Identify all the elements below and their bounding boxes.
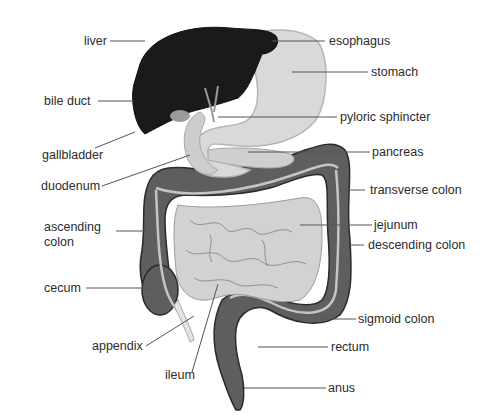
gallbladder-shape — [170, 110, 190, 122]
label-gallbladder: gallbladder — [42, 148, 103, 163]
label-stomach: stomach — [371, 65, 418, 80]
label-sigmoid-colon: sigmoid colon — [358, 312, 434, 327]
label-appendix: appendix — [92, 339, 143, 354]
label-descending-colon: descending colon — [368, 238, 465, 253]
label-bile-duct: bile duct — [44, 94, 91, 109]
anatomy-illustration — [0, 0, 488, 418]
digestive-system-diagram: liver bile duct gallbladder duodenum asc… — [0, 0, 488, 418]
label-esophagus: esophagus — [329, 34, 390, 49]
label-cecum: cecum — [44, 281, 81, 296]
label-pyloric-sphincter: pyloric sphincter — [340, 110, 430, 125]
label-anus: anus — [328, 381, 355, 396]
label-jejunum: jejunum — [374, 218, 418, 233]
small-intestine — [174, 198, 322, 302]
label-ascending-colon-line2: colon — [44, 235, 74, 250]
label-ascending-colon-line1: ascending — [44, 220, 101, 235]
label-ileum: ileum — [165, 368, 195, 383]
label-rectum: rectum — [331, 340, 369, 355]
label-duodenum: duodenum — [41, 179, 100, 194]
appendix-shape — [174, 300, 194, 342]
label-transverse-colon: transverse colon — [370, 183, 462, 198]
label-liver: liver — [84, 34, 107, 49]
label-pancreas: pancreas — [372, 145, 423, 160]
